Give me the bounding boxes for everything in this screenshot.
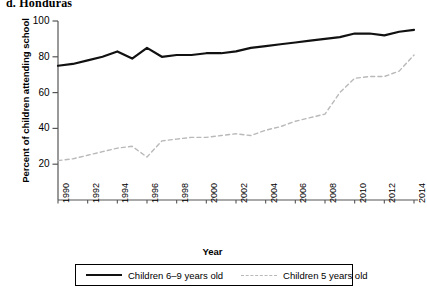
x-tick-label: 1998	[181, 183, 190, 203]
y-tick-label: 60	[24, 88, 50, 98]
x-tick-label: 2002	[240, 183, 249, 203]
x-axis-label: Year	[0, 246, 425, 257]
y-tick-label: 40	[24, 123, 50, 133]
solid-line-swatch-icon	[86, 274, 122, 276]
legend-item-children-6-9: Children 6–9 years old	[86, 270, 223, 281]
y-tick-label: 20	[24, 159, 50, 169]
legend: Children 6–9 years old Children 5 years …	[75, 264, 353, 286]
y-tick-label: 100	[24, 16, 50, 26]
x-tick-label: 2014	[418, 183, 427, 203]
plot-area	[55, 16, 420, 200]
series-line-2	[58, 55, 414, 161]
page-title: d. Honduras	[6, 0, 72, 11]
x-tick-label: 1996	[151, 183, 160, 203]
x-tick-label: 2000	[210, 183, 219, 203]
legend-label: Children 5 years old	[283, 270, 368, 281]
x-tick-label: 2006	[299, 183, 308, 203]
legend-label: Children 6–9 years old	[128, 270, 223, 281]
series-line-1	[58, 30, 414, 66]
x-tick-label: 1990	[62, 183, 71, 203]
x-tick-label: 1992	[92, 183, 101, 203]
x-tick-label: 2010	[359, 183, 368, 203]
x-tick-label: 1994	[121, 183, 130, 203]
series-layer	[55, 16, 420, 200]
legend-item-children-5: Children 5 years old	[241, 270, 368, 281]
x-tick-label: 2012	[388, 183, 397, 203]
x-tick-label: 2008	[329, 183, 338, 203]
x-tick-label: 2004	[270, 183, 279, 203]
y-tick-label: 80	[24, 52, 50, 62]
dashed-line-swatch-icon	[241, 275, 277, 276]
